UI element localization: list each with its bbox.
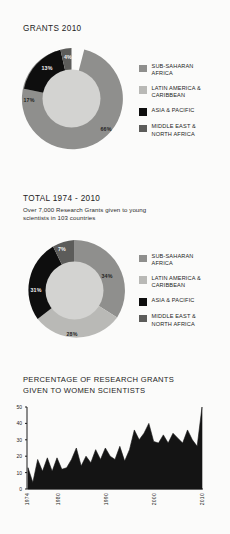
grants-2010-title: GRANTS 2010 bbox=[23, 24, 81, 33]
legend-swatch-icon-sub-saharan bbox=[139, 255, 147, 263]
xtick-label-1990: 1990 bbox=[103, 493, 109, 505]
ytick-label-0: 0 bbox=[12, 486, 22, 492]
legend-label-latin-america: LATIN AMERICA & CARIBBEAN bbox=[152, 275, 201, 289]
total-1974-2010-panel: TOTAL 1974 - 2010 Over 7,000 Research Gr… bbox=[0, 175, 230, 355]
legend-item-asia-pacific: ASIA & PACIFIC bbox=[139, 297, 227, 306]
slice-label-latin-america: 17% bbox=[24, 97, 35, 103]
legend-swatch-icon-asia-pacific bbox=[139, 298, 147, 306]
legend-label-middle-east: MIDDLE EAST & NORTH AFRICA bbox=[152, 123, 196, 137]
legend-item-asia-pacific: ASIA & PACIFIC bbox=[139, 107, 227, 116]
legend-label-sub-saharan: SUB-SAHARAN AFRICA bbox=[152, 253, 194, 267]
total-1974-2010-donut: 34% 28% 31% 7% bbox=[22, 238, 127, 343]
ytick-label-20: 20 bbox=[12, 453, 22, 459]
donut-hole bbox=[43, 70, 101, 128]
grants-2010-panel: GRANTS 2010 66% 17% 13% 4% SUB-SAHARAN bbox=[0, 0, 230, 175]
legend-item-sub-saharan: SUB-SAHARAN AFRICA bbox=[139, 253, 227, 267]
total-1974-2010-subtitle: Over 7,000 Research Grants given to youn… bbox=[23, 206, 163, 223]
legend-item-sub-saharan: SUB-SAHARAN AFRICA bbox=[139, 63, 227, 77]
area-plot-svg bbox=[25, 403, 225, 495]
slice-label-sub-saharan: 34% bbox=[102, 273, 113, 279]
xtick-label-1974: 1974 bbox=[24, 493, 30, 505]
women-scientists-panel: PERCENTAGE OF RESEARCH GRANTS GIVEN TO W… bbox=[0, 355, 230, 534]
grants-2010-donut: 66% 17% 13% 4% bbox=[19, 46, 124, 151]
total-1974-2010-legend: SUB-SAHARAN AFRICA LATIN AMERICA & CARIB… bbox=[139, 253, 227, 335]
ytick-label-30: 30 bbox=[12, 437, 22, 443]
legend-label-latin-america: LATIN AMERICA & CARIBBEAN bbox=[152, 85, 201, 99]
grants-2010-legend: SUB-SAHARAN AFRICA LATIN AMERICA & CARIB… bbox=[139, 63, 227, 145]
slice-label-sub-saharan: 66% bbox=[101, 126, 112, 132]
legend-swatch-icon-asia-pacific bbox=[139, 108, 147, 116]
xtick-label-2000: 2000 bbox=[151, 493, 157, 505]
legend-label-asia-pacific: ASIA & PACIFIC bbox=[152, 297, 195, 304]
slice-label-asia-pacific: 31% bbox=[31, 287, 42, 293]
total-1974-2010-title: TOTAL 1974 - 2010 bbox=[23, 194, 100, 203]
slice-label-middle-east: 4% bbox=[64, 54, 72, 60]
legend-swatch-icon-latin-america bbox=[139, 276, 147, 284]
xtick-label-2010: 2010 bbox=[199, 493, 205, 505]
ytick-label-10: 10 bbox=[12, 470, 22, 476]
legend-item-latin-america: LATIN AMERICA & CARIBBEAN bbox=[139, 85, 227, 99]
infographic-page: GRANTS 2010 66% 17% 13% 4% SUB-SAHARAN bbox=[0, 0, 230, 534]
women-scientists-area-chart: 50 40 30 20 10 0 bbox=[10, 403, 225, 528]
legend-swatch-icon-middle-east bbox=[139, 315, 147, 323]
legend-item-latin-america: LATIN AMERICA & CARIBBEAN bbox=[139, 275, 227, 289]
ytick-label-50: 50 bbox=[12, 404, 22, 410]
slice-label-latin-america: 28% bbox=[67, 331, 78, 337]
slice-label-middle-east: 7% bbox=[58, 246, 66, 252]
legend-label-asia-pacific: ASIA & PACIFIC bbox=[152, 107, 195, 114]
legend-item-middle-east: MIDDLE EAST & NORTH AFRICA bbox=[139, 123, 227, 137]
legend-swatch-icon-latin-america bbox=[139, 86, 147, 94]
legend-swatch-icon-middle-east bbox=[139, 125, 147, 133]
legend-label-sub-saharan: SUB-SAHARAN AFRICA bbox=[152, 63, 194, 77]
legend-label-middle-east: MIDDLE EAST & NORTH AFRICA bbox=[152, 313, 196, 327]
legend-swatch-icon-sub-saharan bbox=[139, 65, 147, 73]
slice-label-asia-pacific: 13% bbox=[42, 65, 53, 71]
women-scientists-title: PERCENTAGE OF RESEARCH GRANTS GIVEN TO W… bbox=[23, 375, 213, 396]
legend-item-middle-east: MIDDLE EAST & NORTH AFRICA bbox=[139, 313, 227, 327]
area-series-path bbox=[28, 407, 202, 489]
ytick-label-40: 40 bbox=[12, 420, 22, 426]
xtick-label-1980: 1980 bbox=[55, 493, 61, 505]
grants-2010-donut-svg bbox=[19, 46, 124, 151]
donut-hole bbox=[46, 262, 104, 320]
